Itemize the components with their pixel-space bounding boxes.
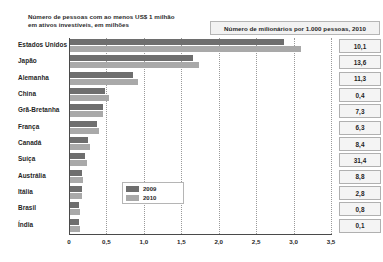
category-label: China	[18, 90, 36, 97]
bar-2010	[69, 95, 109, 101]
bar-group	[69, 103, 331, 119]
category-label: Índia	[18, 221, 33, 228]
bar-2009	[69, 186, 82, 192]
bar-2010	[69, 128, 99, 134]
legend-swatch-2009-icon	[126, 186, 139, 192]
x-tick-label: 2,0	[214, 238, 223, 245]
category-label: Alemanha	[18, 74, 49, 81]
side-value-box: 6,3	[339, 121, 381, 135]
plot-area	[69, 38, 331, 234]
legend-swatch-2010-icon	[126, 195, 139, 201]
category-label: Itália	[18, 188, 33, 195]
legend-item-2009: 2009	[126, 185, 180, 193]
side-values-header-label: Número de milionários por 1.000 pessoas,…	[224, 25, 366, 32]
bar-2009	[69, 219, 79, 225]
bar-group	[69, 38, 331, 54]
bar-2010	[69, 144, 90, 150]
bar-group	[69, 185, 331, 201]
bar-2010	[69, 193, 82, 199]
bar-2009	[69, 153, 85, 159]
bar-group	[69, 54, 331, 70]
bar-group	[69, 120, 331, 136]
bar-2010	[69, 79, 138, 85]
bar-2009	[69, 72, 133, 78]
bar-2009	[69, 137, 88, 143]
side-value-box: 11,3	[339, 72, 381, 86]
bar-group	[69, 136, 331, 152]
category-label: Suíça	[18, 155, 35, 162]
bar-2010	[69, 226, 80, 232]
bar-2009	[69, 55, 193, 61]
side-value-box: 2,8	[339, 186, 381, 200]
side-value-box: 7,3	[339, 104, 381, 118]
x-tick-label: 2,5	[252, 238, 261, 245]
legend-label-2010: 2010	[143, 195, 156, 201]
side-value-box: 0,4	[339, 88, 381, 102]
category-label: Japão	[18, 57, 37, 64]
side-value-box: 8,4	[339, 137, 381, 151]
category-label: Estados Unidos	[18, 41, 67, 48]
bar-2009	[69, 170, 82, 176]
bar-2010	[69, 177, 83, 183]
bar-2010	[69, 160, 87, 166]
bar-group	[69, 218, 331, 234]
side-values-header: Número de milionários por 1.000 pessoas,…	[210, 21, 380, 35]
x-tick-label: 0,5	[102, 238, 111, 245]
gridline	[331, 38, 333, 234]
side-value-box: 0,8	[339, 202, 381, 216]
bar-2009	[69, 121, 97, 127]
side-value-box: 10,1	[339, 39, 381, 53]
bar-group	[69, 71, 331, 87]
bar-2009	[69, 202, 79, 208]
bar-2010	[69, 209, 80, 215]
bar-2010	[69, 111, 103, 117]
x-tick-label: 3,0	[289, 238, 298, 245]
chart-title: Número de pessoas com ao menos US$ 1 mil…	[28, 13, 175, 30]
category-label: Brasil	[18, 204, 36, 211]
chart-figure: Número de pessoas com ao menos US$ 1 mil…	[0, 0, 383, 262]
chart-legend: 2009 2010	[122, 182, 184, 204]
side-value-box: 0,1	[339, 219, 381, 233]
bar-group	[69, 152, 331, 168]
bar-group	[69, 169, 331, 185]
side-value-box: 31,4	[339, 153, 381, 167]
side-value-box: 13,6	[339, 55, 381, 69]
side-value-box: 8,8	[339, 170, 381, 184]
bar-2010	[69, 46, 301, 52]
bar-group	[69, 87, 331, 103]
category-label: Canadá	[18, 139, 41, 146]
category-label: França	[18, 123, 39, 130]
legend-label-2009: 2009	[143, 186, 156, 192]
category-label: Grã-Bretanha	[18, 106, 59, 113]
x-tick-label: 1,5	[177, 238, 186, 245]
bar-2009	[69, 104, 103, 110]
x-tick-label: 0	[67, 238, 70, 245]
category-label: Austrália	[18, 172, 46, 179]
x-axis-line	[69, 234, 332, 235]
bar-2009	[69, 39, 284, 45]
x-tick-label: 3,5	[327, 238, 336, 245]
y-axis-line	[69, 38, 70, 235]
x-tick-label: 1,0	[140, 238, 149, 245]
legend-item-2010: 2010	[126, 194, 180, 202]
bar-2010	[69, 62, 199, 68]
bar-group	[69, 201, 331, 217]
bar-2009	[69, 88, 105, 94]
